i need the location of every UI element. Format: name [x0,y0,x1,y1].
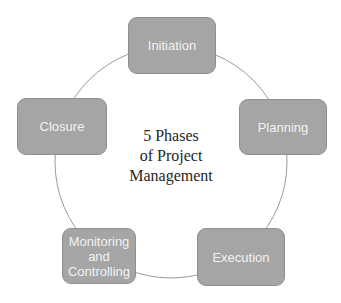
phase-label: Initiation [148,38,196,53]
phase-closure: Closure [17,98,107,155]
title-line: of Project [101,146,241,166]
phase-planning: Planning [239,99,327,155]
phase-label: Closure [40,119,85,134]
diagram-title: 5 Phases of Project Management [101,126,241,186]
phase-monitoring-and-controlling: Monitoring and Controlling [62,228,136,284]
phase-label: Planning [258,120,309,135]
phase-label-line: Monitoring [69,234,130,249]
phase-execution: Execution [197,228,285,286]
phase-label: Execution [212,250,269,265]
phase-label-line: and [88,249,110,264]
title-line: Management [101,166,241,186]
phase-label-line: Controlling [68,264,130,279]
phase-initiation: Initiation [128,17,216,74]
title-line: 5 Phases [101,126,241,146]
